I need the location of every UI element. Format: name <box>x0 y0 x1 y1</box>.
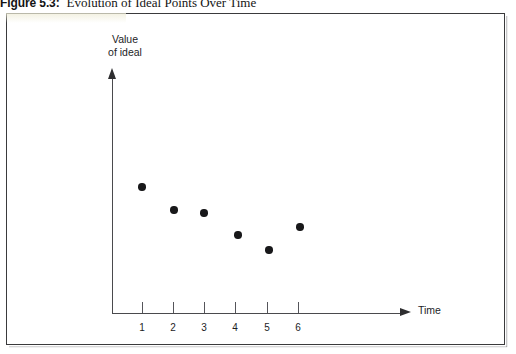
data-point <box>234 231 241 238</box>
data-point <box>200 209 207 216</box>
data-point <box>138 183 145 190</box>
y-axis-label: Value of ideal <box>88 33 162 59</box>
data-point <box>170 206 177 213</box>
x-axis-tick-label-1: 1 <box>134 322 150 333</box>
x-axis-line <box>112 313 402 314</box>
x-axis-tick-1 <box>142 302 143 313</box>
scatter-plot: Value of ideal Time 123456 <box>0 0 516 354</box>
x-axis-tick-4 <box>235 302 236 313</box>
x-axis-tick-label-6: 6 <box>290 322 306 333</box>
y-axis-label-line-1: Value <box>88 33 162 46</box>
figure-page: Figure 5.3:Evolution of Ideal Points Ove… <box>0 0 516 354</box>
x-axis-tick-label-2: 2 <box>165 322 181 333</box>
x-axis-tick-3 <box>204 302 205 313</box>
x-axis-tick-label-5: 5 <box>259 322 275 333</box>
data-point <box>296 223 303 230</box>
x-axis-tick-6 <box>298 302 299 313</box>
x-axis-tick-label-4: 4 <box>227 322 243 333</box>
x-axis-arrow-icon <box>400 308 411 316</box>
x-axis-tick-label-3: 3 <box>196 322 212 333</box>
y-axis-arrow-icon <box>108 68 116 79</box>
x-axis-tick-5 <box>267 302 268 313</box>
data-point <box>265 246 272 253</box>
y-axis-line <box>112 78 113 314</box>
y-axis-label-line-2: of ideal <box>88 46 162 59</box>
x-axis-label: Time <box>418 304 441 316</box>
x-axis-tick-2 <box>173 302 174 313</box>
